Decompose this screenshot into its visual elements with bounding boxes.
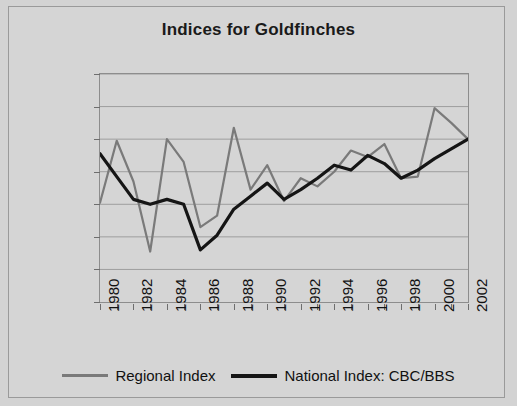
y-axis-tick-mark — [94, 139, 100, 140]
x-axis-tick-mark — [100, 304, 101, 310]
x-axis-tick-label: 2002 — [474, 279, 489, 312]
chart-plot-svg — [100, 74, 468, 302]
legend-label-national: National Index: CBC/BBS — [284, 367, 454, 384]
x-axis-tick-mark — [468, 304, 469, 310]
x-axis-tick-label: 1986 — [206, 279, 221, 312]
x-axis-tick-label: 2000 — [441, 279, 456, 312]
x-axis-tick-mark — [368, 304, 369, 310]
y-axis-tick-mark — [94, 172, 100, 173]
chart-legend: Regional Index National Index: CBC/BBS — [0, 367, 517, 384]
x-axis-tick-label: 1996 — [374, 279, 389, 312]
x-axis-tick-label: 1984 — [173, 279, 188, 312]
x-axis-tick-label: 1982 — [139, 279, 154, 312]
series-line-regional — [100, 108, 468, 251]
x-axis-tick-label: 1988 — [240, 279, 255, 312]
y-axis-tick-mark — [94, 269, 100, 270]
x-axis-tick-mark — [334, 304, 335, 310]
chart-title: Indices for Goldfinches — [0, 20, 517, 40]
x-axis-tick-label: 1990 — [273, 279, 288, 312]
y-axis-tick-mark — [94, 302, 100, 303]
x-axis-tick-label: 1998 — [407, 279, 422, 312]
y-axis-tick-mark — [94, 204, 100, 205]
x-axis-tick-mark — [200, 304, 201, 310]
x-axis-tick-mark — [167, 304, 168, 310]
x-axis-tick-mark — [301, 304, 302, 310]
x-axis-tick-mark — [234, 304, 235, 310]
chart-figure: Indices for Goldfinches Index: 2002=100 … — [0, 0, 517, 406]
x-axis-tick-mark — [401, 304, 402, 310]
regional-line-swatch — [62, 374, 108, 377]
plot-area: Index: 2002=100 020406080100120140198019… — [99, 73, 469, 303]
x-axis-tick-label: 1994 — [340, 279, 355, 312]
x-axis-tick-mark — [133, 304, 134, 310]
legend-item-regional: Regional Index — [62, 367, 215, 384]
x-axis-tick-mark — [435, 304, 436, 310]
legend-label-regional: Regional Index — [115, 367, 215, 384]
national-line-swatch — [231, 374, 277, 378]
y-axis-tick-mark — [94, 107, 100, 108]
legend-item-national: National Index: CBC/BBS — [231, 367, 454, 384]
series-line-national — [100, 139, 468, 250]
y-axis-tick-mark — [94, 237, 100, 238]
x-axis-tick-label: 1980 — [106, 279, 121, 312]
y-axis-tick-mark — [94, 74, 100, 75]
x-axis-tick-mark — [267, 304, 268, 310]
x-axis-tick-label: 1992 — [307, 279, 322, 312]
